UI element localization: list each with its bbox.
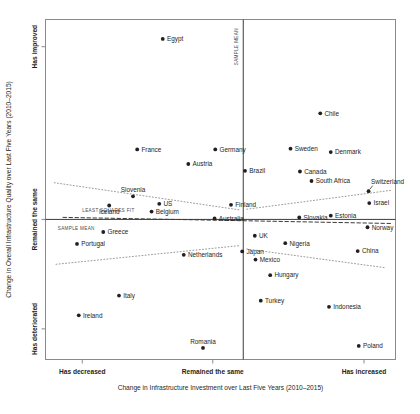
data-point-austria[interactable]: Austria: [186, 160, 212, 167]
point-label: Italy: [123, 292, 136, 300]
point-marker[interactable]: [297, 215, 301, 219]
data-point-finland[interactable]: Finland: [229, 201, 257, 208]
data-point-iceland[interactable]: Iceland: [99, 204, 120, 215]
point-marker[interactable]: [366, 225, 370, 229]
point-marker[interactable]: [229, 203, 233, 207]
data-point-uk[interactable]: UK: [253, 232, 269, 239]
point-marker[interactable]: [101, 230, 105, 234]
data-point-netherlands[interactable]: Netherlands: [182, 251, 223, 258]
point-marker[interactable]: [157, 202, 161, 206]
data-point-indonesia[interactable]: Indonesia: [327, 303, 361, 310]
data-point-egypt[interactable]: Egypt: [161, 35, 184, 43]
data-point-norway[interactable]: Norway: [366, 224, 395, 232]
point-marker[interactable]: [329, 214, 333, 218]
point-marker[interactable]: [357, 344, 361, 348]
point-marker[interactable]: [182, 253, 186, 257]
point-marker[interactable]: [186, 162, 190, 166]
data-point-france[interactable]: France: [135, 146, 161, 153]
point-marker[interactable]: [117, 294, 121, 298]
point-marker[interactable]: [254, 258, 258, 262]
data-point-poland[interactable]: Poland: [357, 342, 383, 349]
point-label: Chile: [324, 110, 339, 117]
data-point-ireland[interactable]: Ireland: [77, 312, 103, 319]
point-label: UK: [259, 232, 269, 239]
upper-left-fit: [54, 183, 240, 210]
y-tick-label-0: Has improved: [31, 25, 39, 69]
point-marker[interactable]: [213, 217, 217, 221]
point-marker[interactable]: [367, 189, 371, 193]
label-leader-line: [370, 186, 373, 190]
point-label: Australia: [219, 215, 244, 222]
data-point-japan[interactable]: Japan: [240, 248, 264, 256]
point-label: Hungary: [274, 271, 299, 279]
y-tick-label-1: Remained the same: [31, 188, 38, 250]
point-marker[interactable]: [135, 147, 139, 151]
point-marker[interactable]: [356, 249, 360, 253]
data-point-china[interactable]: China: [356, 247, 379, 254]
data-point-australia[interactable]: Australia: [213, 215, 244, 222]
point-marker[interactable]: [77, 313, 81, 317]
x-tick-label-1: Remained the same: [182, 368, 244, 375]
point-marker[interactable]: [367, 201, 371, 205]
data-point-hungary[interactable]: Hungary: [268, 271, 299, 279]
data-point-canada[interactable]: Canada: [298, 168, 327, 175]
point-marker[interactable]: [201, 346, 205, 350]
point-label: Iceland: [99, 208, 120, 215]
point-marker[interactable]: [243, 169, 247, 173]
x-tick-label-0: Has decreased: [59, 368, 106, 375]
point-marker[interactable]: [318, 111, 322, 115]
point-marker[interactable]: [161, 37, 165, 41]
data-point-portugal[interactable]: Portugal: [75, 240, 105, 248]
point-label: South Africa: [316, 177, 351, 184]
point-marker[interactable]: [289, 147, 293, 151]
point-marker[interactable]: [327, 305, 331, 309]
point-label: Romania: [190, 338, 216, 345]
data-point-italy[interactable]: Italy: [117, 292, 136, 300]
data-point-mexico[interactable]: Mexico: [254, 256, 281, 263]
data-point-greece[interactable]: Greece: [101, 228, 129, 235]
data-point-us[interactable]: US: [157, 200, 172, 207]
point-marker[interactable]: [268, 273, 272, 277]
point-label: Egypt: [167, 35, 184, 43]
data-point-brazil[interactable]: Brazil: [243, 167, 265, 174]
annotation-sample-mean-vertical: SAMPLE MEAN: [234, 28, 239, 65]
point-label: Mexico: [260, 256, 281, 263]
point-marker[interactable]: [150, 210, 154, 214]
point-label: Turkey: [265, 297, 285, 305]
data-point-estonia[interactable]: Estonia: [329, 212, 357, 219]
data-point-switzerland[interactable]: Switzerland: [367, 178, 405, 193]
data-point-sweden[interactable]: Sweden: [289, 145, 319, 152]
point-marker[interactable]: [298, 170, 302, 174]
point-marker[interactable]: [213, 147, 217, 151]
data-point-germany[interactable]: Germany: [213, 146, 246, 154]
point-marker[interactable]: [259, 299, 263, 303]
point-marker[interactable]: [283, 241, 287, 245]
point-marker[interactable]: [75, 242, 79, 246]
point-marker[interactable]: [253, 234, 257, 238]
point-label: Ireland: [83, 312, 103, 319]
point-label: Denmark: [335, 148, 362, 155]
point-label: Indonesia: [333, 303, 361, 310]
data-point-nigeria[interactable]: Nigeria: [283, 240, 310, 248]
point-label: Finland: [235, 201, 256, 208]
x-axis-title: Change in Infrastructure Investment over…: [118, 384, 324, 392]
point-label: US: [163, 200, 172, 207]
data-point-chile[interactable]: Chile: [318, 110, 339, 117]
data-point-belgium[interactable]: Belgium: [150, 208, 179, 216]
data-point-turkey[interactable]: Turkey: [259, 297, 285, 305]
point-label: China: [362, 247, 379, 254]
data-point-slovenia[interactable]: Slovenia: [121, 186, 146, 198]
data-point-denmark[interactable]: Denmark: [329, 148, 362, 155]
data-point-israel[interactable]: Israel: [367, 199, 389, 206]
point-marker[interactable]: [329, 150, 333, 154]
y-axis-title: Change in Overall Infrastructure Quality…: [5, 81, 13, 298]
point-marker[interactable]: [131, 194, 135, 198]
data-point-south-africa[interactable]: South Africa: [310, 177, 351, 184]
y-tick-label-2: Has deteriorated: [31, 303, 38, 355]
point-label: Portugal: [81, 240, 105, 248]
point-label: Greece: [107, 228, 128, 235]
point-marker[interactable]: [310, 179, 314, 183]
data-point-romania[interactable]: Romania: [190, 338, 216, 350]
upper-right-fit: [247, 190, 392, 209]
point-marker[interactable]: [240, 249, 244, 253]
